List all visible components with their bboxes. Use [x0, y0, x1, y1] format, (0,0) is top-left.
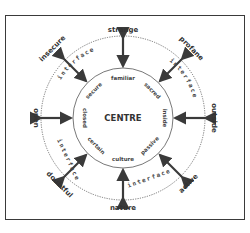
- interface-label-bottom-left-vertical: interface: [56, 137, 82, 182]
- outer-label-right: outside: [210, 103, 218, 133]
- inner-label-bottom-right: passive: [139, 135, 161, 157]
- outer-label-top-right: profane: [178, 35, 206, 63]
- inner-label-right: inside: [162, 109, 168, 128]
- outer-label-bottom-left: doubtful: [45, 170, 74, 199]
- inner-label-top: familiar: [111, 75, 135, 81]
- interface-label-bottom-right: interface: [126, 166, 172, 188]
- outer-label-left: open: [32, 108, 40, 128]
- inner-label-bottom-left: certain: [87, 136, 107, 156]
- interface-label-top-left: interface: [56, 45, 96, 81]
- centre-label: CENTRE: [104, 113, 142, 123]
- inner-label-bottom: culture: [112, 156, 134, 162]
- inner-label-top-right: sacred: [143, 81, 162, 100]
- outer-label-top: strange: [108, 26, 139, 34]
- centre-periphery-diagram: CENTRE strange nature profane insecure o…: [0, 0, 250, 233]
- outer-label-bottom: nature: [110, 204, 136, 212]
- outer-label-top-left: insecure: [38, 34, 68, 64]
- inner-label-left: closed: [82, 108, 88, 128]
